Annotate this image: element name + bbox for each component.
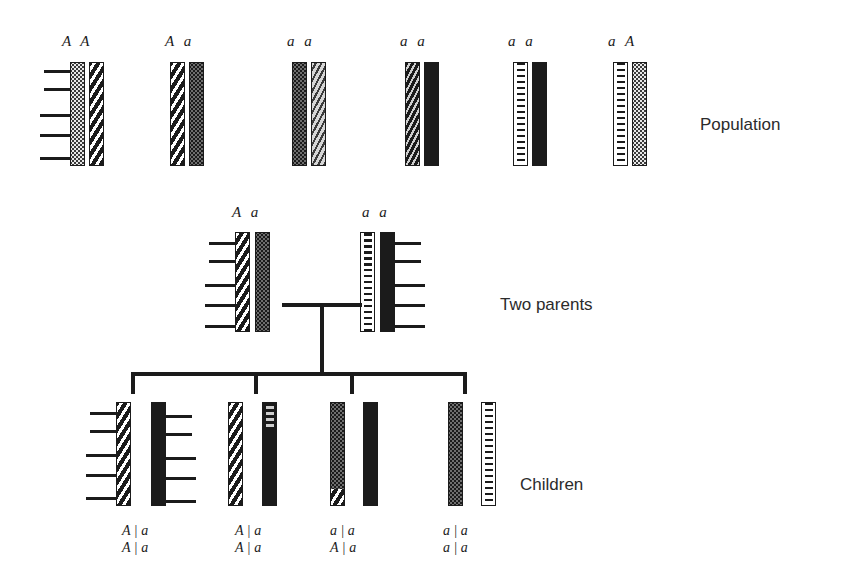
parent-genotype-label-0: A a <box>232 204 261 221</box>
child-chromosome-0-1 <box>151 402 166 506</box>
population-genotype-label-4: a a <box>508 33 536 50</box>
child-marker-tick-left-0 <box>86 497 116 500</box>
parent-chromosome-1-1 <box>380 232 395 332</box>
population-genotype-label-5: a A <box>608 33 637 50</box>
population-chromosome-5-1 <box>632 62 647 166</box>
population-marker-tick-0 <box>40 134 70 137</box>
population-chromosome-0-1 <box>89 62 104 166</box>
population-genotype-label-0: A A <box>62 33 93 50</box>
child-chromosome-3-0 <box>448 402 463 506</box>
child-marker-tick-left-0 <box>86 474 116 477</box>
parent-chromosome-1-0 <box>360 232 375 332</box>
parent-marker-tick-1 <box>395 242 421 245</box>
child-genotype-line2-3: a | a <box>443 539 468 556</box>
population-chromosome-2-1 <box>311 62 326 166</box>
population-chromosome-2-0 <box>292 62 307 166</box>
population-marker-tick-0 <box>44 88 70 91</box>
sibship-drop-2 <box>350 372 354 394</box>
child-genotype-line1-2: a | a <box>330 522 356 539</box>
child-chromosome-1-1 <box>262 402 277 506</box>
parent-marker-tick-0 <box>209 242 235 245</box>
population-chromosome-4-0 <box>513 62 528 166</box>
parent-chromosome-0-0 <box>235 232 250 332</box>
child-genotype-line2-1: A | a <box>235 539 261 556</box>
parent-marker-tick-0 <box>205 325 235 328</box>
parent-marker-tick-1 <box>395 260 421 263</box>
child-marker-tick-left-0 <box>86 454 116 457</box>
sibship-drop-3 <box>463 372 467 394</box>
parent-marker-tick-1 <box>395 304 425 307</box>
child-marker-tick-right-0 <box>166 457 196 460</box>
parent-marker-tick-0 <box>209 260 235 263</box>
population-marker-tick-0 <box>40 157 70 160</box>
parent-marker-tick-1 <box>395 325 425 328</box>
descent-line <box>320 303 324 373</box>
child-genotype-label-3: a | aa | a <box>443 522 468 556</box>
child-genotype-label-0: A | aA | a <box>122 522 148 556</box>
population-genotype-label-2: a a <box>287 33 315 50</box>
child-marker-tick-left-0 <box>90 412 116 415</box>
child-genotype-label-2: a | aA | a <box>330 522 356 556</box>
child-marker-tick-right-0 <box>166 477 196 480</box>
sibship-line <box>131 372 467 376</box>
population-marker-tick-0 <box>44 70 70 73</box>
section-caption-children: Children <box>520 475 583 495</box>
population-chromosome-3-0 <box>405 62 420 166</box>
child-marker-tick-right-0 <box>166 415 192 418</box>
child-chromosome-2-0-segment <box>331 489 344 506</box>
child-chromosome-1-0 <box>228 402 243 506</box>
child-chromosome-2-1 <box>363 402 378 506</box>
child-genotype-line2-0: A | a <box>122 539 148 556</box>
population-chromosome-0-0 <box>70 62 85 166</box>
sibship-drop-0 <box>131 372 135 394</box>
parent-chromosome-0-1 <box>255 232 270 332</box>
child-genotype-line2-2: A | a <box>330 539 356 556</box>
population-chromosome-1-1 <box>189 62 204 166</box>
parent-genotype-label-1: a a <box>362 204 390 221</box>
genetics-pedigree-figure: A AA aa aa aa aa AA aa aA | aA | aA | aA… <box>0 0 849 581</box>
population-genotype-label-1: A a <box>165 33 194 50</box>
child-marker-tick-left-0 <box>90 430 116 433</box>
child-chromosome-0-0 <box>116 402 131 506</box>
child-genotype-line1-3: a | a <box>443 522 468 539</box>
child-chromosome-1-1-segment <box>263 403 276 427</box>
population-chromosome-5-0 <box>613 62 628 166</box>
population-chromosome-3-1 <box>424 62 439 166</box>
child-chromosome-2-0 <box>330 402 345 506</box>
population-chromosome-1-0 <box>170 62 185 166</box>
child-chromosome-3-1 <box>481 402 496 506</box>
sibship-drop-1 <box>254 372 258 394</box>
child-genotype-line1-0: A | a <box>122 522 148 539</box>
child-marker-tick-right-0 <box>166 433 192 436</box>
child-marker-tick-right-0 <box>166 500 196 503</box>
section-caption-population: Population <box>700 115 780 135</box>
parent-marker-tick-0 <box>205 304 235 307</box>
parent-marker-tick-0 <box>205 284 235 287</box>
child-genotype-label-1: A | aA | a <box>235 522 261 556</box>
child-genotype-line1-1: A | a <box>235 522 261 539</box>
population-chromosome-4-1 <box>532 62 547 166</box>
population-marker-tick-0 <box>40 114 70 117</box>
population-genotype-label-3: a a <box>400 33 428 50</box>
section-caption-parents: Two parents <box>500 295 593 315</box>
parent-marker-tick-1 <box>395 284 425 287</box>
